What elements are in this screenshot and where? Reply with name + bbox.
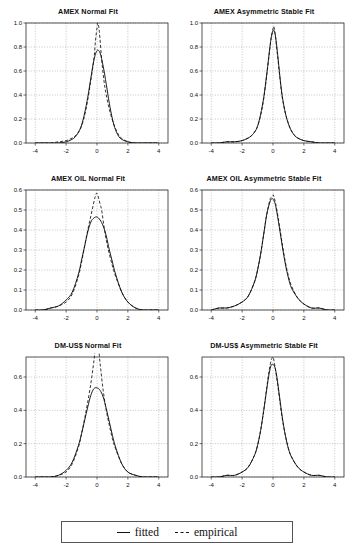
x-axis-tick-label: -4 <box>33 482 39 488</box>
y-axis-tick-label: 0.6 <box>14 68 23 74</box>
y-axis-tick-label: 0.8 <box>190 44 199 50</box>
x-axis-tick-label: 2 <box>126 315 130 321</box>
plot-svg: -4-20240.00.20.40.60.81.0 <box>0 18 176 161</box>
legend-label-fitted: fitted <box>135 526 159 538</box>
x-axis-tick-label: 0 <box>95 482 99 488</box>
plot-svg: -4-20240.00.20.40.6 <box>176 352 352 495</box>
y-axis-tick-label: 0.6 <box>190 68 199 74</box>
plot-svg: -4-20240.00.10.20.30.40.50.6 <box>176 185 352 328</box>
y-axis-tick-label: 0.2 <box>190 441 199 447</box>
x-axis-tick-label: 4 <box>157 148 161 154</box>
x-axis-tick-label: 4 <box>333 315 337 321</box>
chart-panel-dm-usd-asymmetric-stable-fit: DM-US$ Asymmetric Stable Fit -4-20240.00… <box>176 334 352 500</box>
panel-title: DM-US$ Normal Fit <box>0 341 176 350</box>
series-line-empirical <box>35 193 158 310</box>
y-axis-tick-label: 1.0 <box>14 20 23 26</box>
panel-grid: AMEX Normal Fit -4-20240.00.20.40.60.81.… <box>0 0 352 500</box>
plot-area: -4-20240.00.10.20.30.40.50.6 <box>0 185 176 328</box>
y-axis-tick-label: 0.5 <box>14 207 23 213</box>
plot-area: -4-20240.00.20.40.60.81.0 <box>176 18 352 161</box>
y-axis-tick-label: 0.3 <box>14 247 23 253</box>
y-axis-tick-label: 0.4 <box>14 407 23 413</box>
y-axis-tick-label: 0.0 <box>14 140 23 146</box>
x-axis-tick-label: 2 <box>126 482 130 488</box>
x-axis-tick-label: -4 <box>33 148 39 154</box>
y-axis-tick-label: 0.2 <box>190 267 199 273</box>
y-axis-tick-label: 0.6 <box>190 374 199 380</box>
chart-panel-amex-normal-fit: AMEX Normal Fit -4-20240.00.20.40.60.81.… <box>0 0 176 167</box>
legend-label-empirical: empirical <box>194 526 237 538</box>
panel-title: AMEX Normal Fit <box>0 7 176 16</box>
chart-panel-amex-oil-asymmetric-stable-fit: AMEX OIL Asymmetric Stable Fit -4-20240.… <box>176 167 352 334</box>
x-axis-tick-label: -2 <box>63 148 69 154</box>
y-axis-tick-label: 0.0 <box>190 140 199 146</box>
x-axis-tick-label: 0 <box>271 482 275 488</box>
x-axis-tick-label: -2 <box>63 315 69 321</box>
y-axis-tick-label: 0.0 <box>190 307 199 313</box>
y-axis-tick-label: 0.0 <box>14 474 23 480</box>
dashed-line-icon <box>175 532 189 533</box>
solid-line-icon <box>117 532 130 533</box>
y-axis-tick-label: 0.0 <box>190 474 199 480</box>
legend-item-empirical: empirical <box>175 526 237 538</box>
legend-box: fitted empirical <box>61 521 293 543</box>
y-axis-tick-label: 0.6 <box>14 187 23 193</box>
series-line-fitted <box>211 199 334 311</box>
y-axis-tick-label: 0.2 <box>14 441 23 447</box>
x-axis-tick-label: 2 <box>126 148 130 154</box>
y-axis-tick-label: 0.4 <box>190 227 199 233</box>
y-axis-tick-label: 0.2 <box>190 116 199 122</box>
x-axis-tick-label: -4 <box>209 315 215 321</box>
y-axis-tick-label: 0.4 <box>190 407 199 413</box>
x-axis-tick-label: 2 <box>302 315 306 321</box>
panel-title: AMEX OIL Asymmetric Stable Fit <box>176 174 352 183</box>
series-line-empirical <box>211 26 334 143</box>
y-axis-tick-label: 0.2 <box>14 267 23 273</box>
plot-area: -4-20240.00.20.40.60.81.0 <box>0 18 176 161</box>
x-axis-tick-label: -4 <box>33 315 39 321</box>
figure-legend-area: fitted empirical <box>0 500 352 558</box>
panel-title: AMEX Asymmetric Stable Fit <box>176 7 352 16</box>
plot-svg: -4-20240.00.20.40.6 <box>0 352 176 495</box>
x-axis-tick-label: -2 <box>63 482 69 488</box>
x-axis-tick-label: 0 <box>271 315 275 321</box>
panel-title: AMEX OIL Normal Fit <box>0 174 176 183</box>
y-axis-tick-label: 0.3 <box>190 247 199 253</box>
x-axis-tick-label: -2 <box>239 482 245 488</box>
y-axis-tick-label: 0.8 <box>14 44 23 50</box>
x-axis-tick-label: 0 <box>271 148 275 154</box>
chart-panel-amex-oil-normal-fit: AMEX OIL Normal Fit -4-20240.00.10.20.30… <box>0 167 176 334</box>
x-axis-tick-label: -2 <box>239 315 245 321</box>
x-axis-tick-label: 4 <box>333 148 337 154</box>
chart-panel-dm-usd-normal-fit: DM-US$ Normal Fit -4-20240.00.20.40.6 <box>0 334 176 500</box>
x-axis-tick-label: -2 <box>239 148 245 154</box>
y-axis-tick-label: 0.1 <box>190 287 199 293</box>
y-axis-tick-label: 0.4 <box>14 227 23 233</box>
plot-svg: -4-20240.00.20.40.60.81.0 <box>176 18 352 161</box>
y-axis-tick-label: 0.6 <box>14 374 23 380</box>
y-axis-tick-label: 0.6 <box>190 187 199 193</box>
y-axis-tick-label: 0.2 <box>14 116 23 122</box>
plot-area: -4-20240.00.10.20.30.40.50.6 <box>176 185 352 328</box>
x-axis-tick-label: 4 <box>157 482 161 488</box>
panel-title: DM-US$ Asymmetric Stable Fit <box>176 341 352 350</box>
x-axis-tick-label: 0 <box>95 315 99 321</box>
x-axis-tick-label: 0 <box>95 148 99 154</box>
plot-area: -4-20240.00.20.40.6 <box>176 352 352 495</box>
x-axis-tick-label: 4 <box>157 315 161 321</box>
y-axis-tick-label: 0.4 <box>190 92 199 98</box>
y-axis-tick-label: 0.0 <box>14 307 23 313</box>
plot-area: -4-20240.00.20.40.6 <box>0 352 176 495</box>
chart-panel-amex-asymmetric-stable-fit: AMEX Asymmetric Stable Fit -4-20240.00.2… <box>176 0 352 167</box>
x-axis-tick-label: 4 <box>333 482 337 488</box>
x-axis-tick-label: 2 <box>302 482 306 488</box>
x-axis-tick-label: -4 <box>209 482 215 488</box>
y-axis-tick-label: 0.4 <box>14 92 23 98</box>
y-axis-tick-label: 0.1 <box>14 287 23 293</box>
plot-svg: -4-20240.00.10.20.30.40.50.6 <box>0 185 176 328</box>
y-axis-tick-label: 0.5 <box>190 207 199 213</box>
x-axis-tick-label: 2 <box>302 148 306 154</box>
x-axis-tick-label: -4 <box>209 148 215 154</box>
y-axis-tick-label: 1.0 <box>190 20 199 26</box>
legend-item-fitted: fitted <box>117 526 159 538</box>
